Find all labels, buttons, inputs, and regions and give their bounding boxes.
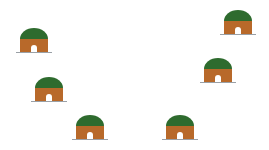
hut-icon	[16, 28, 52, 54]
hut-icon	[220, 10, 256, 36]
roof	[166, 115, 194, 126]
roof	[35, 77, 63, 88]
door	[177, 132, 183, 139]
door	[235, 27, 241, 34]
hut-icon	[162, 115, 198, 141]
door	[87, 132, 93, 139]
roof	[76, 115, 104, 126]
hut-icon	[31, 77, 67, 103]
hut-icon	[72, 115, 108, 141]
roof	[204, 58, 232, 69]
roof	[20, 28, 48, 39]
hut-icon	[200, 58, 236, 84]
door	[31, 45, 37, 52]
roof	[224, 10, 252, 21]
door	[215, 75, 221, 82]
door	[46, 94, 52, 101]
